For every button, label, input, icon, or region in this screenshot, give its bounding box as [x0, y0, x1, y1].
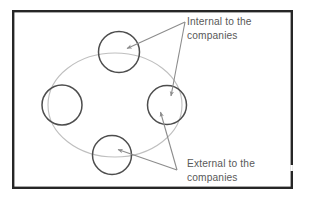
figure-container: Internal to the companies External to th…	[0, 0, 311, 209]
external-label-line-2: companies	[187, 172, 238, 183]
border-notch	[290, 165, 293, 171]
internal-label-line-2: companies	[187, 30, 238, 41]
external-label-line-1: External to the	[187, 158, 255, 169]
canvas-background	[0, 0, 311, 209]
diagram-canvas: Internal to the companies External to th…	[0, 0, 311, 209]
internal-label-line-1: Internal to the	[187, 16, 252, 27]
